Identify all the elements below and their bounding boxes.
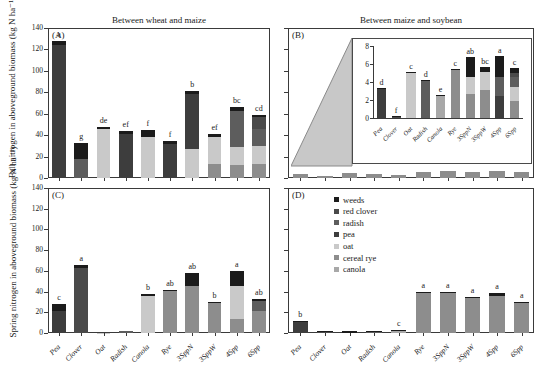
y-tick-mark-B	[284, 135, 288, 136]
inset-bar-Canola[interactable]	[436, 46, 445, 118]
bar-segment-oat	[208, 137, 222, 164]
bar-segment-pea	[52, 45, 66, 178]
inset-bar-Oat[interactable]	[406, 46, 415, 118]
inset-bar-4Spp[interactable]	[495, 46, 504, 118]
y-tick-mark-C	[44, 209, 48, 210]
bar-A-Pea[interactable]	[52, 28, 66, 178]
x-tick-mark-D	[300, 333, 301, 336]
bar-D-Clover[interactable]	[317, 188, 332, 333]
legend-label-radish: radish	[343, 219, 364, 228]
y-tick-label-C: 60	[22, 267, 43, 275]
bar-C-3SppN[interactable]	[185, 188, 199, 333]
bar-C-Oat[interactable]	[97, 188, 111, 333]
y-tick-mark-C	[44, 229, 48, 230]
bar-A-Canola[interactable]	[141, 28, 155, 178]
inset-x-axis	[373, 118, 523, 119]
x-tick-mark-B	[448, 178, 449, 181]
bar-D-6Spp[interactable]	[514, 188, 529, 333]
bar-A-Clover[interactable]	[74, 28, 88, 178]
bar-segment-total	[440, 171, 455, 178]
bar-segment-radish	[230, 111, 244, 147]
inset-bar-Rye[interactable]	[451, 46, 460, 118]
inset-bar-segment-radish	[421, 81, 430, 118]
bar-D-Canola[interactable]	[391, 188, 406, 333]
inset-bar-segment-radish	[495, 77, 504, 97]
inset-bar-segment-red-clover	[392, 117, 401, 118]
legend-item-oat: oat	[334, 240, 377, 252]
bar-segment-red-clover	[74, 268, 88, 333]
legend-label-oat: oat	[343, 242, 353, 251]
bar-D-3SppW[interactable]	[465, 188, 480, 333]
inset-bar-segment-oat	[480, 72, 489, 90]
x-tick-mark-A	[104, 178, 105, 181]
y-tick-mark-A	[44, 71, 48, 72]
bar-A-3SppN[interactable]	[185, 28, 199, 178]
sig-letter-A-Clover: g	[79, 132, 83, 141]
bar-segment-oat	[185, 149, 199, 178]
legend-swatch-red-clover	[334, 209, 339, 214]
bar-D-Rye[interactable]	[416, 188, 431, 333]
bar-D-4Spp[interactable]	[489, 188, 504, 333]
inset-sig-letter-Rye: c	[454, 59, 458, 68]
inset-bar-segment-cereal-rye	[451, 70, 460, 118]
inset-y-tick-label: 4	[356, 78, 369, 87]
y-tick-label-C: 0	[22, 329, 43, 337]
inset-bar-segment-cereal-rye	[480, 90, 489, 118]
inset-sig-letter-6Spp: c	[513, 58, 517, 67]
inset-y-tick-mark	[370, 100, 374, 101]
sig-letter-C-3SppW: b	[213, 291, 217, 300]
panel-title-B: Between maize and soybean	[288, 15, 534, 25]
x-tick-mark-B	[325, 178, 326, 181]
bar-segment-cereal-rye	[252, 311, 266, 333]
bar-segment-oat	[230, 286, 244, 318]
bar-C-Pea[interactable]	[52, 188, 66, 333]
sig-letter-D-4Spp: a	[495, 282, 499, 291]
legend-swatch-canola	[334, 267, 339, 272]
bar-C-3SppW[interactable]	[208, 188, 222, 333]
inset-y-tick-mark	[370, 82, 374, 83]
inset-sig-letter-Radish: d	[424, 70, 428, 79]
bar-A-Oat[interactable]	[97, 28, 111, 178]
bar-C-6Spp[interactable]	[252, 188, 266, 333]
bar-segment-cereal-rye	[252, 164, 266, 178]
inset-sig-letter-Canola: e	[439, 85, 443, 94]
bar-segment-cereal-rye	[440, 293, 455, 333]
x-tick-mark-A	[126, 178, 127, 181]
x-tick-mark-B	[423, 178, 424, 181]
inset-sig-letter-4Spp: a	[498, 46, 502, 55]
bar-segment-cereal-rye	[230, 165, 244, 178]
bar-A-3SppW[interactable]	[208, 28, 222, 178]
y-tick-mark-D	[284, 188, 288, 189]
x-tick-mark-C	[192, 333, 193, 336]
sig-letter-A-Rye: f	[169, 130, 172, 139]
legend-swatch-radish	[334, 220, 339, 225]
bar-D-3SppN[interactable]	[440, 188, 455, 333]
sig-letter-A-Oat: de	[100, 116, 108, 125]
x-tick-mark-C	[59, 333, 60, 336]
inset-bar-segment-weeds	[495, 56, 504, 77]
sig-letter-D-Canola: c	[397, 319, 401, 328]
bar-A-Rye[interactable]	[163, 28, 177, 178]
bar-segment-oat	[230, 147, 244, 165]
y-tick-mark-A	[44, 135, 48, 136]
bar-segment-pea	[293, 322, 308, 333]
bar-segment-pea	[52, 311, 66, 333]
sig-letter-C-Pea: c	[57, 293, 61, 302]
x-tick-mark-C	[104, 333, 105, 336]
inset-bar-Radish[interactable]	[421, 46, 430, 118]
bar-segment-oat	[97, 129, 111, 178]
x-tick-mark-C	[81, 333, 82, 336]
bar-C-Canola[interactable]	[141, 188, 155, 333]
legend: weedsred cloverradishpeaoatcereal ryecan…	[334, 194, 377, 275]
y-tick-mark-B	[284, 92, 288, 93]
bar-segment-cereal-rye	[208, 164, 222, 178]
bar-C-Rye[interactable]	[163, 188, 177, 333]
y-tick-mark-C	[44, 271, 48, 272]
y-tick-label-C: 120	[22, 205, 43, 213]
bar-C-Radish[interactable]	[119, 188, 133, 333]
x-tick-mark-B	[497, 178, 498, 181]
x-tick-mark-B	[473, 178, 474, 181]
inset-bar-segment-cereal-rye	[466, 94, 475, 118]
bar-A-Radish[interactable]	[119, 28, 133, 178]
inset-bar-3SppN[interactable]	[466, 46, 475, 118]
